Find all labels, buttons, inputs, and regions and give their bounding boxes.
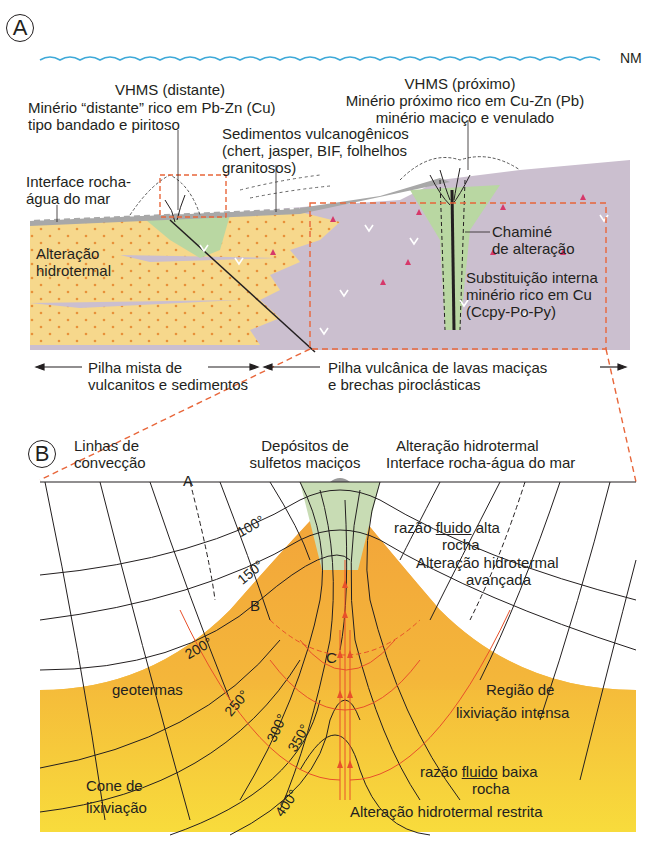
interface-line1: Interface rocha- [26,174,131,190]
replacement-line3: (Ccpy-Po-Py) [466,304,556,320]
sediments-line3: granitosos) [222,160,296,176]
alteration-line1: Alteração [36,246,99,262]
hydrothermal-interface-line1: Alteração hidrotermal [396,438,539,454]
sediments-line1: Sedimentos vulcanogênicos [222,126,409,142]
sea-level-label: NM [620,50,642,66]
intense-leaching-line2: lixiviação intensa [456,705,569,721]
vhms-proximal-title: VHMS (próximo) [300,76,620,92]
massive-sulfides-line1: Depósitos de [240,438,370,454]
low-ratio-rock: rocha [472,781,510,797]
low-ratio-label: razão fluido baixa [420,764,538,780]
chimney-line2: de alteração [492,241,575,257]
leaching-cone-line1: Cone de [86,778,143,794]
panel-b-letter: B [28,440,56,468]
point-c: C [326,650,337,666]
massive-sulfides-line2: sulfetos maciços [240,455,370,471]
convection-line2: convecção [74,455,146,471]
vhms-distal-line1: Minério “distante” rico em Pb-Zn (Cu) [28,100,276,116]
chimney-line1: Chaminé [492,224,552,240]
replacement-line2: minério rico em Cu [466,287,592,303]
volcanic-pile-line2: e brechas piroclásticas [328,377,481,393]
geotherms-label: geotermas [112,682,183,698]
interface-line2: água do mar [26,191,110,207]
vhms-distal-title: VHMS (distante) [75,82,265,98]
intense-leaching-line1: Região de [486,682,554,698]
hydrothermal-interface-line2: Interface rocha-água do mar [386,455,575,471]
volcanic-pile-line1: Pilha vulcânica de lavas maciças [328,360,547,376]
point-a: A [183,473,193,489]
advanced-line2: avançada [466,572,531,588]
vhms-distal-line2: tipo bandado e piritoso [28,117,180,133]
vhms-proximal-line2: minério maciço e venulado [310,110,620,126]
mixed-pile-line1: Pilha mista de [88,360,182,376]
restricted-alteration: Alteração hidrotermal restrita [350,804,543,820]
high-ratio-rock: rocha [442,537,480,553]
sea-level-line [40,57,600,60]
convection-line1: Linhas de [74,438,139,454]
sediments-line2: (chert, jasper, BIF, folhelhos [222,143,407,159]
advanced-line1: Alteração hidrotermal [416,555,559,571]
leaching-cone-line2: lixiviação [86,800,147,816]
mixed-pile-line2: vulcanitos e sedimentos [88,377,248,393]
point-b: B [250,598,260,614]
high-ratio-label: razão fluido alta [394,520,500,536]
panel-a-letter: A [6,14,34,42]
alteration-line2: hidrotermal [36,263,111,279]
vhms-proximal-line1: Minério próximo rico em Cu-Zn (Pb) [310,93,620,109]
replacement-line1: Substituição interna [466,270,598,286]
